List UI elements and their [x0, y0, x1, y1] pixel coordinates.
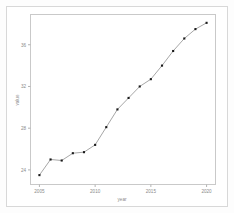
data-point-marker: 2009: 25.7 — [83, 151, 85, 153]
data-point-marker: 2018: 36.6 — [183, 37, 185, 39]
x-axis-ticks: 2005201020152020 — [34, 185, 212, 194]
plot-frame — [31, 15, 216, 185]
data-series-group: 2005: 23.52006: 252007: 24.92008: 25.620… — [38, 22, 207, 176]
data-point-marker: 2016: 34 — [161, 65, 163, 67]
data-point-marker: 2020: 38.1 — [206, 22, 208, 24]
x-tick-label: 2010 — [90, 189, 101, 194]
y-tick-label: 36 — [21, 43, 27, 48]
plot-frame-group — [31, 15, 216, 185]
data-point-marker: 2019: 37.5 — [194, 28, 196, 30]
x-tick-label: 2005 — [34, 189, 45, 194]
y-axis-title: value — [15, 94, 20, 105]
y-tick-label: 28 — [21, 126, 27, 131]
x-tick-label: 2020 — [201, 189, 212, 194]
data-point-marker: 2010: 26.4 — [94, 144, 96, 146]
x-tick-label: 2015 — [146, 189, 157, 194]
chart-svg: 2005201020152020 24283236 2005: 23.52006… — [0, 0, 234, 213]
data-point-marker: 2011: 28.1 — [105, 126, 107, 128]
data-point-marker: 2007: 24.9 — [61, 159, 63, 161]
x-axis-title: year — [118, 197, 127, 202]
series-line — [39, 23, 206, 175]
data-point-marker: 2008: 25.6 — [72, 152, 74, 154]
series-markers: 2005: 23.52006: 252007: 24.92008: 25.620… — [38, 22, 207, 176]
data-point-marker: 2006: 25 — [50, 158, 52, 160]
y-tick-label: 32 — [21, 84, 27, 89]
chart-page: 2005201020152020 24283236 2005: 23.52006… — [0, 0, 234, 213]
data-point-marker: 2017: 35.4 — [172, 50, 174, 52]
line-chart: 2005201020152020 24283236 2005: 23.52006… — [0, 0, 234, 213]
y-tick-label: 24 — [21, 168, 27, 173]
data-point-marker: 2005: 23.5 — [38, 174, 40, 176]
data-point-marker: 2013: 30.9 — [128, 97, 130, 99]
data-point-marker: 2015: 32.7 — [150, 78, 152, 80]
y-axis-ticks: 24283236 — [21, 43, 31, 173]
data-point-marker: 2012: 29.8 — [116, 108, 118, 110]
data-point-marker: 2014: 32 — [139, 85, 141, 87]
